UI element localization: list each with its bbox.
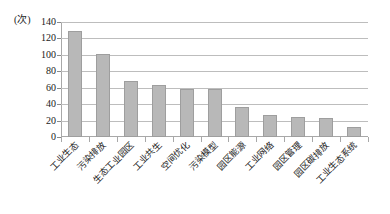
bar xyxy=(291,117,305,137)
y-tick-label-140: 140 xyxy=(0,17,56,27)
y-tick-label-60: 60 xyxy=(0,83,56,93)
x-axis-label: 污染模型 xyxy=(187,140,220,173)
y-tick-label-100: 100 xyxy=(0,50,56,60)
y-tick-label-80: 80 xyxy=(0,66,56,76)
bar xyxy=(180,89,194,137)
y-tick-label-40: 40 xyxy=(0,99,56,109)
y-tick-label-120: 120 xyxy=(0,33,56,43)
bar xyxy=(263,115,277,137)
bar xyxy=(124,81,138,137)
x-axis-label: 空间优化 xyxy=(159,140,192,173)
bar xyxy=(319,118,333,137)
bar-chart: (次) 0 20 40 60 80 100 120 140 xyxy=(0,0,390,214)
bar xyxy=(347,127,361,137)
y-tick-label-20: 20 xyxy=(0,116,56,126)
bars-layer xyxy=(61,22,368,137)
y-tick-label-0: 0 xyxy=(0,132,56,142)
x-axis-label: 工业生态 xyxy=(48,140,81,173)
bar xyxy=(152,85,166,137)
bar xyxy=(235,107,249,137)
bar xyxy=(96,54,110,137)
bar xyxy=(68,31,82,137)
plot-area xyxy=(61,22,368,137)
x-axis-label: 工业共生 xyxy=(131,140,164,173)
x-axis-label: 工业网络 xyxy=(243,140,276,173)
y-axis-labels: 0 20 40 60 80 100 120 140 xyxy=(0,22,56,137)
bar xyxy=(208,89,222,137)
x-axis-labels: 工业生态污染排放生态工业园区工业共生空间优化污染模型园区能源工业网络园区管理园区… xyxy=(61,140,390,214)
x-axis-label: 园区能源 xyxy=(215,140,248,173)
